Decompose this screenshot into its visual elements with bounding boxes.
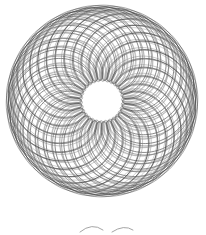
- fragment-curve: [112, 227, 133, 232]
- fragment-curve: [80, 226, 103, 232]
- center-hole: [99, 98, 105, 104]
- curve-fragment: [80, 226, 133, 232]
- spirograph-drawing: [0, 0, 206, 235]
